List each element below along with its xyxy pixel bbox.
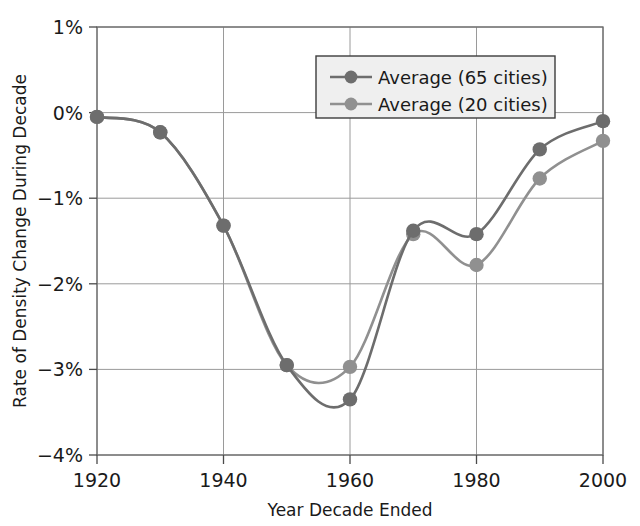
y-axis-tick-label: 1% <box>53 16 83 38</box>
legend-marker-swatch <box>345 98 358 111</box>
data-point-marker <box>216 218 230 232</box>
x-axis-tick-label: 1920 <box>73 469 121 491</box>
y-axis-tick-label: −3% <box>37 358 83 380</box>
data-point-marker <box>280 358 294 372</box>
data-point-marker <box>596 114 610 128</box>
legend-entry-label: Average (20 cities) <box>378 94 548 115</box>
legend-marker-swatch <box>345 71 358 84</box>
y-axis-tick-label: −4% <box>37 444 83 466</box>
y-axis-title: Rate of Density Change During Decade <box>10 74 30 408</box>
data-point-marker <box>343 392 357 406</box>
y-axis-title-text: Rate of Density Change During Decade <box>10 74 30 408</box>
y-axis-tick-label: −2% <box>37 273 83 295</box>
data-point-marker <box>343 360 357 374</box>
data-point-marker <box>469 258 483 272</box>
y-axis-tick-label: −1% <box>37 187 83 209</box>
x-axis-title: Year Decade Ended <box>267 500 433 520</box>
density-change-line-chart: 1%0%−1%−2%−3%−4% 19201940196019802000 Ra… <box>0 0 640 526</box>
data-point-marker <box>90 110 104 124</box>
x-axis-tick-label: 1980 <box>452 469 500 491</box>
x-axis-tick-label: 2000 <box>579 469 627 491</box>
data-point-marker <box>153 125 167 139</box>
data-point-marker <box>533 142 547 156</box>
x-axis-tick-label: 1960 <box>326 469 374 491</box>
x-axis-title-text: Year Decade Ended <box>267 500 433 520</box>
data-point-marker <box>469 227 483 241</box>
data-point-marker <box>596 134 610 148</box>
data-point-marker <box>406 224 420 238</box>
chart-container: 1%0%−1%−2%−3%−4% 19201940196019802000 Ra… <box>0 0 640 526</box>
x-axis-tick-label: 1940 <box>199 469 247 491</box>
legend-entry-label: Average (65 cities) <box>378 67 548 88</box>
chart-legend[interactable]: Average (65 cities)Average (20 cities) <box>316 56 555 118</box>
y-axis-tick-label: 0% <box>53 102 83 124</box>
data-point-marker <box>533 171 547 185</box>
